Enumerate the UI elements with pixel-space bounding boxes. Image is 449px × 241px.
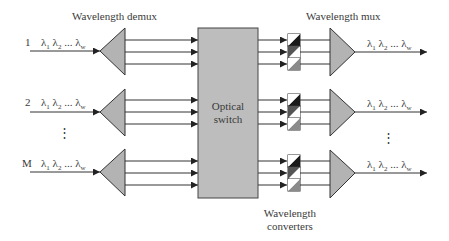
mux-triangle-2	[330, 89, 355, 136]
optical-switch-label: Optical switch	[198, 100, 258, 126]
mux-triangle-m	[330, 150, 355, 198]
input-port-label-2: 2	[25, 97, 31, 108]
demux-triangle-1	[100, 28, 125, 75]
mux-triangle-1	[330, 28, 355, 76]
demux-triangle-2	[100, 89, 125, 136]
input-wavelengths-1: λ1 λ2 ... λw	[41, 37, 86, 51]
wavelength-converter-stack-m	[288, 155, 300, 191]
output-wavelengths-m: λ1 λ2 ... λw	[367, 159, 412, 173]
input-ellipsis: ⋮	[58, 126, 71, 139]
output-wavelengths-2: λ1 λ2 ... λw	[367, 98, 412, 112]
input-wavelengths-m: λ1 λ2 ... λw	[41, 158, 86, 172]
demux-triangle-m	[100, 149, 125, 196]
output-wavelengths-1: λ1 λ2 ... λw	[367, 38, 412, 52]
demux-title: Wavelength demux	[72, 11, 157, 22]
wavelength-converter-stack-2	[288, 94, 300, 130]
wavelength-converter-stack-1	[288, 34, 300, 70]
mux-title: Wavelength mux	[306, 11, 381, 22]
output-ellipsis: ⋮	[382, 131, 395, 144]
input-port-label-1: 1	[25, 37, 31, 48]
wavelength-converters-label: Wavelength converters	[250, 207, 330, 233]
input-port-label-m: M	[22, 158, 32, 169]
input-wavelengths-2: λ1 λ2 ... λw	[41, 97, 86, 111]
